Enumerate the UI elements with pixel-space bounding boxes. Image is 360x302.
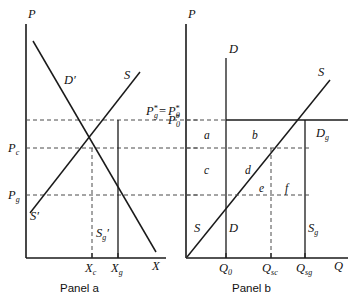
panel-a-supply-label: S xyxy=(124,68,131,82)
panel-b-demand-g-label: Dg xyxy=(315,126,329,142)
panel-a-supply-prime-label: S′ xyxy=(30,209,39,223)
panel-b-y-axis-label: P xyxy=(187,7,196,21)
panel-b-quantity-zero-label: Q0 xyxy=(219,261,232,277)
panel-b-demand-label: D xyxy=(228,221,238,235)
panel-b-region-e: e xyxy=(259,182,264,194)
panel-b-price-star-zero-label: P*0 xyxy=(167,112,180,129)
panel-b-region-f: f xyxy=(285,182,290,195)
panel-b-supply-top-label: S xyxy=(318,65,325,79)
panel-b-region-b: b xyxy=(252,129,258,141)
panel-b-quantity-sc-label: Qsc xyxy=(262,261,278,277)
panel-b-demand-top-label: D xyxy=(228,42,238,56)
panel-b-region-c: c xyxy=(204,164,209,176)
panel-b-supply-label: S xyxy=(194,221,201,235)
panel-a-supply-curve xyxy=(30,72,140,213)
panel-b-quantity-sg-label: Qsg xyxy=(296,261,312,277)
panel-a-demand-curve xyxy=(33,41,156,252)
panel-a-group: P X D′ S S′ Sg′ Pc xyxy=(7,7,200,294)
panel-a-price-g-label: Pg xyxy=(7,188,20,204)
panel-b-region-d: d xyxy=(245,164,251,176)
panel-a-demand-label: D′ xyxy=(63,73,76,87)
panel-a-quantity-c-label: Xc xyxy=(84,261,97,277)
panel-a-quantity-g-label: Xg xyxy=(110,261,123,277)
supply-demand-diagram: P X D′ S S′ Sg′ Pc xyxy=(0,0,360,302)
panel-a-y-axis-label: P xyxy=(27,7,36,21)
panel-a-supply-g-prime-label: Sg′ xyxy=(96,226,109,242)
panel-a-price-c-label: Pc xyxy=(7,141,20,157)
figure-root: P X D′ S S′ Sg′ Pc xyxy=(0,0,360,302)
panel-b-caption: Panel b xyxy=(232,282,271,294)
panel-b-supply-g-label: Sg xyxy=(308,221,318,237)
panel-b-group: P Q D S Dg S xyxy=(167,7,348,294)
panel-b-x-axis-label: Q xyxy=(334,259,343,273)
panel-a-x-axis-label: X xyxy=(151,259,161,273)
panel-b-region-a: a xyxy=(204,129,210,141)
panel-a-caption: Panel a xyxy=(60,282,100,294)
